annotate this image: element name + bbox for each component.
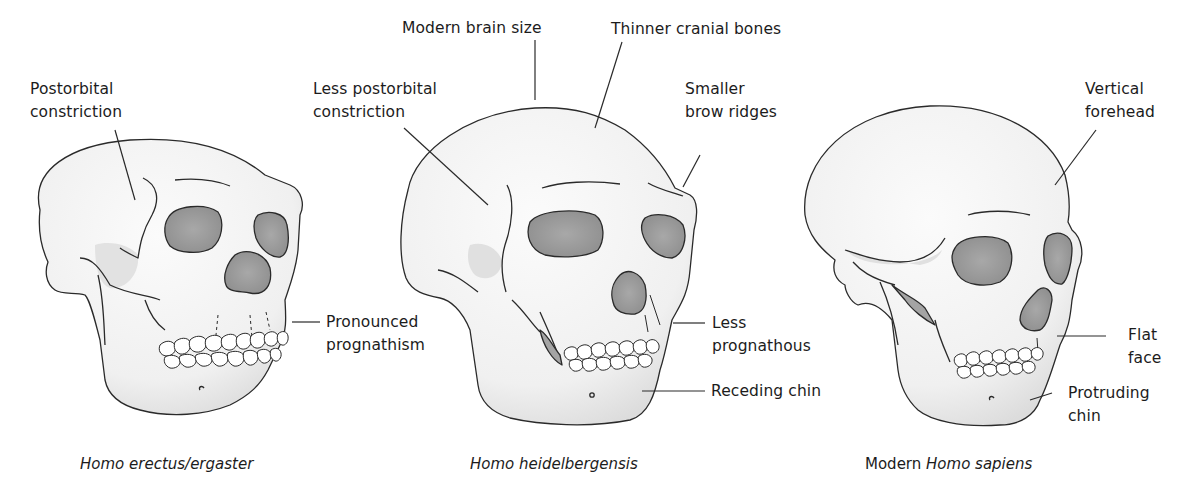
label-line: Postorbital [30,78,122,101]
label-flat-face: Flat face [1128,324,1161,370]
leader-cranial-bones [595,42,622,128]
label-less-prognathous: Less prognathous [712,312,811,358]
label-line: chin [1068,405,1150,428]
label-line: Less postorbital [313,78,437,101]
label-line: brow ridges [685,101,777,124]
skull-illustrations [0,0,1188,489]
label-line: Pronounced [326,311,425,334]
caption-homo-heidelbergensis: Homo heidelbergensis [470,455,638,473]
label-line: prognathism [326,334,425,357]
label-less-postorbital-constriction: Less postorbital constriction [313,78,437,124]
label-smaller-brow-ridges: Smaller brow ridges [685,78,777,124]
caption-homo-erectus: Homo erectus/ergaster [80,455,253,473]
skull-homo-heidelbergensis [401,108,697,425]
skull-homo-sapiens [805,106,1082,426]
label-line: Flat [1128,324,1161,347]
label-modern-brain-size: Modern brain size [402,17,542,40]
caption-species: Homo heidelbergensis [470,455,638,473]
label-vertical-forehead: Vertical forehead [1085,78,1155,124]
caption-species: Homo sapiens [926,455,1032,473]
label-thinner-cranial-bones: Thinner cranial bones [611,18,781,41]
label-line: constriction [313,101,437,124]
label-line: face [1128,347,1161,370]
label-line: Thinner cranial bones [611,18,781,41]
label-line: Receding chin [711,380,821,403]
label-line: constriction [30,101,122,124]
label-receding-chin: Receding chin [711,380,821,403]
label-line: Protruding [1068,382,1150,405]
caption-species: Homo erectus/ergaster [80,455,253,473]
leader-brow-ridges [683,155,700,187]
leader-forehead [1055,130,1096,185]
caption-homo-sapiens: Modern Homo sapiens [865,455,1032,473]
label-line: prognathous [712,335,811,358]
label-line: forehead [1085,101,1155,124]
label-line: Vertical [1085,78,1155,101]
label-postorbital-constriction: Postorbital constriction [30,78,122,124]
label-pronounced-prognathism: Pronounced prognathism [326,311,425,357]
label-protruding-chin: Protruding chin [1068,382,1150,428]
label-line: Less [712,312,811,335]
label-line: Smaller [685,78,777,101]
label-line: Modern brain size [402,17,542,40]
skull-comparison-figure: Postorbital constriction Pronounced prog… [0,0,1188,489]
skull-homo-erectus [38,139,302,414]
caption-prefix: Modern [865,455,926,473]
